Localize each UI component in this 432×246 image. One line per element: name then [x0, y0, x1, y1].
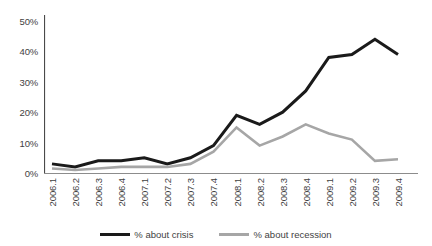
x-tick-label: 2006.1: [47, 178, 58, 206]
x-tick-label: 2006.3: [93, 178, 104, 206]
y-tick-label: 40%: [4, 46, 38, 57]
x-tick-label: 2009.2: [347, 178, 358, 206]
plot-svg: [44, 0, 426, 246]
y-tick-label: 50%: [4, 16, 38, 27]
y-tick-label: 30%: [4, 76, 38, 87]
legend-swatch-crisis: [100, 233, 130, 237]
x-tick-label: 2009.1: [324, 178, 335, 206]
series-line-crisis: [52, 39, 398, 167]
y-tick-label: 0%: [4, 168, 38, 179]
legend-label-crisis: % about crisis: [134, 229, 193, 240]
x-tick-label: 2008.4: [301, 178, 312, 206]
x-tick-label: 2007.2: [162, 178, 173, 206]
x-tick-label: 2007.1: [139, 178, 150, 206]
y-tick-label: 20%: [4, 107, 38, 118]
plot-area: 2006.12006.22006.32006.42007.12007.22007…: [44, 0, 426, 246]
legend-label-recession: % about recession: [253, 229, 331, 240]
line-chart: 0%10%20%30%40%50% 2006.12006.22006.32006…: [0, 0, 432, 246]
x-tick-label: 2006.2: [70, 178, 81, 206]
chart-legend: % about crisis % about recession: [0, 229, 432, 240]
x-tick-label: 2008.3: [278, 178, 289, 206]
x-tick-label: 2009.3: [370, 178, 381, 206]
x-tick-label: 2007.4: [208, 178, 219, 206]
x-tick-label: 2008.1: [232, 178, 243, 206]
x-tick-label: 2009.4: [393, 178, 404, 206]
y-axis-tick-labels: 0%10%20%30%40%50%: [4, 0, 38, 246]
legend-swatch-recession: [219, 233, 249, 236]
x-tick-label: 2007.3: [185, 178, 196, 206]
x-tick-label: 2008.2: [255, 178, 266, 206]
legend-item-crisis: % about crisis: [100, 229, 193, 240]
x-tick-label: 2006.4: [116, 178, 127, 206]
legend-item-recession: % about recession: [219, 229, 331, 240]
y-tick-label: 10%: [4, 137, 38, 148]
